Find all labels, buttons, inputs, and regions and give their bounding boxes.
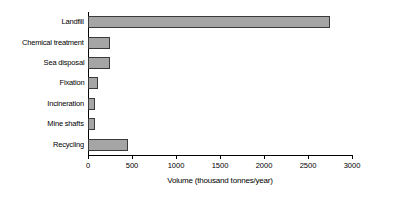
- category-label: Sea disposal: [43, 54, 84, 72]
- x-axis-tick-label: 3000: [344, 161, 361, 171]
- x-axis-tick: [220, 155, 221, 159]
- x-axis-tick-label: 1000: [168, 161, 185, 171]
- bar-row: Mine shafts: [88, 114, 352, 134]
- bar: [88, 139, 128, 151]
- category-label: Incineration: [47, 95, 84, 113]
- bar: [88, 57, 110, 69]
- x-axis-tick-label: 1500: [212, 161, 229, 171]
- x-axis-tick: [352, 155, 353, 159]
- category-label: Landfill: [62, 13, 84, 31]
- bar-row: Sea disposal: [88, 53, 352, 73]
- x-axis-tick: [264, 155, 265, 159]
- bar-row: Recycling: [88, 135, 352, 155]
- x-axis-tick-label: 0: [86, 161, 90, 171]
- bar-row: Chemical treatment: [88, 32, 352, 52]
- category-label: Mine shafts: [48, 115, 84, 133]
- bar: [88, 16, 330, 28]
- category-label: Recycling: [53, 136, 84, 154]
- bar-chart: LandfillChemical treatmentSea disposalFi…: [0, 0, 395, 197]
- x-axis-title: Volume (thousand tonnes/year): [88, 176, 352, 186]
- x-axis-tick-label: 2500: [300, 161, 317, 171]
- plot-area: LandfillChemical treatmentSea disposalFi…: [88, 12, 352, 155]
- bar: [88, 77, 98, 89]
- x-axis-tick: [176, 155, 177, 159]
- bar: [88, 37, 110, 49]
- bar: [88, 98, 95, 110]
- bar: [88, 118, 95, 130]
- bar-row: Landfill: [88, 12, 352, 32]
- x-axis-tick: [132, 155, 133, 159]
- x-axis-tick-label: 2000: [256, 161, 273, 171]
- bar-row: Fixation: [88, 73, 352, 93]
- x-axis-tick-label: 500: [126, 161, 139, 171]
- bar-row: Incineration: [88, 94, 352, 114]
- category-label: Chemical treatment: [22, 34, 84, 52]
- x-axis-tick: [88, 155, 89, 159]
- x-axis-tick: [308, 155, 309, 159]
- category-label: Fixation: [59, 74, 84, 92]
